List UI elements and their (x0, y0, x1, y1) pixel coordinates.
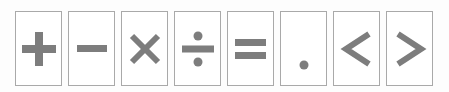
symbol-card-minus[interactable]: Minus (68, 11, 115, 86)
symbol-card-strip: Plus Minus Times Divided by (15, 11, 433, 86)
greater-than-icon (395, 31, 425, 67)
symbol-card-period[interactable]: Point (280, 11, 327, 86)
less-than-icon (342, 31, 372, 67)
symbol-card-equals[interactable]: Equals (227, 11, 274, 86)
divide-icon (182, 31, 214, 67)
equals-icon (235, 37, 266, 61)
symbol-card-greater-than[interactable]: Greater than (386, 11, 433, 86)
period-icon (298, 59, 310, 71)
symbol-card-sheet: Plus Minus Times Divided by (0, 0, 449, 92)
symbol-card-multiply[interactable]: Times (121, 11, 168, 86)
symbol-card-less-than[interactable]: Less than (333, 11, 380, 86)
symbol-card-divide[interactable]: Divided by (174, 11, 221, 86)
multiply-icon (129, 33, 161, 65)
plus-icon (22, 32, 56, 66)
symbol-card-plus[interactable]: Plus (15, 11, 62, 86)
minus-icon (77, 32, 107, 66)
